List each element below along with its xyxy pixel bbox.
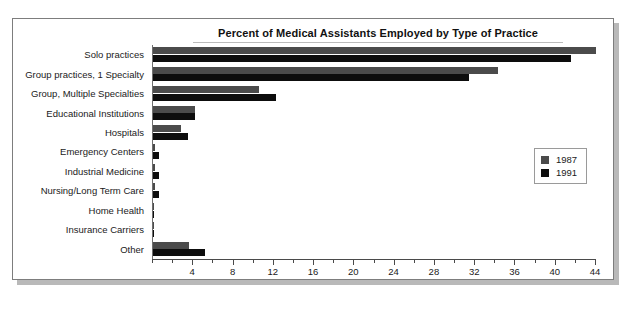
x-axis-tick [273,259,274,265]
chart-legend: 19871991 [534,148,587,184]
bar-1987 [153,164,155,171]
bar-1991 [153,249,205,256]
bar-1991 [153,211,154,218]
x-axis-tick [253,259,254,263]
x-axis-tick-label: 8 [230,266,235,277]
x-axis-tick [535,259,536,263]
y-axis-label: Group practices, 1 Specialty [13,64,149,83]
x-axis-tick-label: 32 [469,266,480,277]
x-axis-tick [212,259,213,263]
x-axis-tick [192,259,193,265]
x-axis-tick [474,259,475,265]
chart-frame: Percent of Medical Assistants Employed b… [12,18,614,280]
legend-label: 1991 [556,167,577,178]
bar-1987 [153,183,155,190]
chart-screenshot: Percent of Medical Assistants Employed b… [0,0,636,313]
bar-1987 [153,222,154,229]
x-axis-tick [575,259,576,263]
legend-swatch-icon [541,156,549,164]
bar-group [152,103,595,122]
x-axis-tick-label: 28 [429,266,440,277]
x-axis-tick-label: 44 [590,266,601,277]
bar-group [152,123,595,142]
plot-area [152,45,595,259]
bar-group [152,45,595,64]
bar-1991 [153,94,276,101]
x-axis-tick [293,259,294,263]
bar-1987 [153,125,181,132]
x-axis-tick-label: 24 [388,266,399,277]
y-axis-category-labels: Solo practicesGroup practices, 1 Special… [13,45,149,259]
x-axis-tick-label: 20 [348,266,359,277]
x-axis-tick [172,259,173,263]
y-axis-label: Solo practices [13,45,149,64]
bar-1991 [153,191,159,198]
y-axis-label: Other [13,239,149,258]
bar-group [152,201,595,220]
x-axis-tick [353,259,354,265]
bar-group [152,84,595,103]
x-axis-tick [414,259,415,263]
y-axis-label: Industrial Medicine [13,162,149,181]
legend-label: 1987 [556,154,577,165]
x-axis-tick [454,259,455,263]
bar-1991 [153,74,469,81]
bar-1987 [153,86,259,93]
x-axis-tick [152,259,153,263]
bar-1987 [153,203,154,210]
bar-1987 [153,144,155,151]
x-axis-tick-label: 36 [509,266,520,277]
x-axis-tick [434,259,435,265]
x-axis-tick-label: 16 [308,266,319,277]
x-axis-tick [374,259,375,263]
bar-1991 [153,55,571,62]
x-axis-ticks: 48121620242832364044 [152,259,595,281]
bar-1991 [153,113,195,120]
y-axis-label: Insurance Carriers [13,220,149,239]
bar-1987 [153,47,596,54]
legend-item[interactable]: 1991 [541,166,577,179]
x-axis-tick [494,259,495,263]
bar-group [152,220,595,239]
y-axis-label: Hospitals [13,123,149,142]
chart-title: Percent of Medical Assistants Employed b… [193,27,563,43]
bar-group [152,162,595,181]
legend-item[interactable]: 1987 [541,153,577,166]
x-axis-tick-label: 40 [549,266,560,277]
y-axis-label: Educational Institutions [13,103,149,122]
bar-1987 [153,67,498,74]
bar-group [152,239,595,258]
x-axis-tick-label: 4 [190,266,195,277]
bar-group [152,64,595,83]
bar-group [152,142,595,161]
bar-1987 [153,242,189,249]
y-axis-label: Home Health [13,201,149,220]
y-axis-label: Group, Multiple Specialties [13,84,149,103]
x-axis-tick [394,259,395,265]
bar-1991 [153,152,159,159]
x-axis-tick [233,259,234,265]
x-axis-tick [313,259,314,265]
x-axis-tick [595,259,596,265]
y-axis-label: Nursing/Long Term Care [13,181,149,200]
bar-rows [152,45,595,259]
bar-1991 [153,133,188,140]
legend-swatch-icon [541,169,549,177]
x-axis-tick [333,259,334,263]
x-axis-tick [514,259,515,265]
x-axis-tick-label: 12 [268,266,279,277]
y-axis-label: Emergency Centers [13,142,149,161]
bar-1991 [153,230,154,237]
bar-group [152,181,595,200]
x-axis-tick [555,259,556,265]
bar-1987 [153,106,195,113]
bar-1991 [153,172,159,179]
